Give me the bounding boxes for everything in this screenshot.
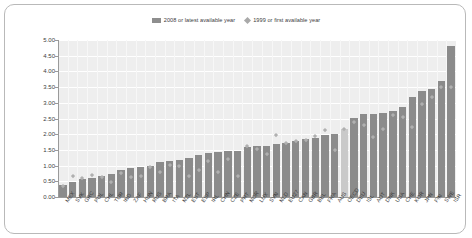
bar[interactable] <box>399 107 406 197</box>
y-axis-tick-label: 5.00 <box>43 37 55 43</box>
chart-card: 2008 or latest available year 1999 or fi… <box>4 4 466 234</box>
y-axis-tick-mark <box>55 87 58 88</box>
bar-group[interactable] <box>417 40 427 197</box>
y-axis-tick-mark <box>55 103 58 104</box>
bar[interactable] <box>312 138 319 197</box>
bar-group[interactable] <box>233 40 243 197</box>
bar-group[interactable] <box>136 40 146 197</box>
y-axis-tick-mark <box>55 166 58 167</box>
bar-group[interactable] <box>330 40 340 197</box>
bar-group[interactable] <box>281 40 291 197</box>
bar[interactable] <box>379 113 386 197</box>
diamond-marker[interactable] <box>70 174 75 179</box>
bar[interactable] <box>350 118 357 197</box>
y-axis-tick-label: 2.50 <box>43 116 55 122</box>
bar-group[interactable] <box>97 40 107 197</box>
bar-group[interactable] <box>204 40 214 197</box>
bar[interactable] <box>428 89 435 197</box>
y-axis-tick-mark <box>55 134 58 135</box>
bar[interactable] <box>409 97 416 197</box>
y-axis-tick-mark <box>55 71 58 72</box>
bar-group[interactable] <box>194 40 204 197</box>
bar-group[interactable] <box>320 40 330 197</box>
y-axis-tick-label: 3.00 <box>43 100 55 106</box>
bar-group[interactable] <box>68 40 78 197</box>
bar-group[interactable] <box>369 40 379 197</box>
diamond-marker[interactable] <box>323 128 328 133</box>
y-axis-tick-mark <box>55 150 58 151</box>
bar-group[interactable] <box>407 40 417 197</box>
bar-group[interactable] <box>359 40 369 197</box>
bar[interactable] <box>447 46 454 197</box>
bar-group[interactable] <box>213 40 223 197</box>
plot-wrapper: 0.000.501.001.502.002.503.003.504.004.50… <box>5 5 467 235</box>
y-axis-tick-labels: 0.000.501.001.502.002.503.003.504.004.50… <box>23 40 55 197</box>
y-axis-tick-label: 3.50 <box>43 84 55 90</box>
y-axis-tick-label: 2.00 <box>43 131 55 137</box>
bar-group[interactable] <box>252 40 262 197</box>
diamond-marker[interactable] <box>274 133 279 138</box>
y-axis-tick-label: 0.50 <box>43 178 55 184</box>
y-axis-tick-mark <box>55 40 58 41</box>
bar-group[interactable] <box>242 40 252 197</box>
bar-group[interactable] <box>301 40 311 197</box>
bar[interactable] <box>282 143 289 197</box>
y-axis-tick-label: 4.50 <box>43 53 55 59</box>
bar-group[interactable] <box>87 40 97 197</box>
y-axis-tick-mark <box>55 181 58 182</box>
bars-layer <box>58 40 456 197</box>
bar-group[interactable] <box>165 40 175 197</box>
bar-group[interactable] <box>310 40 320 197</box>
bar-group[interactable] <box>446 40 456 197</box>
bar[interactable] <box>273 144 280 197</box>
bar-group[interactable] <box>174 40 184 197</box>
y-axis-tick-mark <box>55 197 58 198</box>
bar-group[interactable] <box>291 40 301 197</box>
bar[interactable] <box>370 114 377 197</box>
bar-group[interactable] <box>349 40 359 197</box>
bar-group[interactable] <box>340 40 350 197</box>
x-axis-tick-labels: MEXSVKGRCPOLCHLTURINDZAFHUNRUSBRAITANZLE… <box>58 198 456 238</box>
bar[interactable] <box>341 129 348 197</box>
bar-group[interactable] <box>388 40 398 197</box>
bar-group[interactable] <box>116 40 126 197</box>
bar[interactable] <box>389 111 396 197</box>
bar[interactable] <box>438 81 445 197</box>
bar[interactable] <box>302 139 309 197</box>
bar-group[interactable] <box>272 40 282 197</box>
bar-group[interactable] <box>427 40 437 197</box>
bar-group[interactable] <box>262 40 272 197</box>
y-axis-tick-label: 4.00 <box>43 68 55 74</box>
bar-group[interactable] <box>126 40 136 197</box>
bar[interactable] <box>321 135 328 197</box>
bar-group[interactable] <box>58 40 68 197</box>
bar-group[interactable] <box>107 40 117 197</box>
y-axis-tick-mark <box>55 119 58 120</box>
bar-group[interactable] <box>145 40 155 197</box>
bar-group[interactable] <box>184 40 194 197</box>
bar-group[interactable] <box>223 40 233 197</box>
bar-group[interactable] <box>437 40 447 197</box>
y-axis-tick-mark <box>55 56 58 57</box>
bar[interactable] <box>331 134 338 197</box>
y-axis-tick-label: 1.00 <box>43 163 55 169</box>
bar-group[interactable] <box>77 40 87 197</box>
y-axis-tick-label: 0.00 <box>43 194 55 200</box>
bar[interactable] <box>244 147 251 197</box>
y-axis-tick-label: 1.50 <box>43 147 55 153</box>
bar-group[interactable] <box>155 40 165 197</box>
bar-group[interactable] <box>378 40 388 197</box>
bar-group[interactable] <box>398 40 408 197</box>
